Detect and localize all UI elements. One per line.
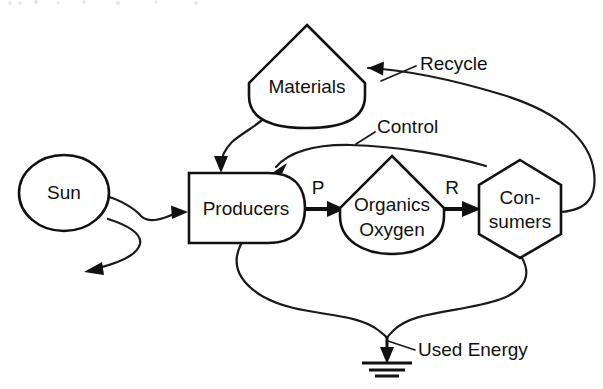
flow-sun-dissipation-branch (98, 219, 140, 268)
arrowhead-materials-into-producers (214, 156, 228, 173)
label-recycle: Recycle (420, 53, 488, 74)
arrowhead-recycle-into-materials (368, 62, 384, 76)
label-sun: Sun (47, 182, 81, 203)
label-consumers-line2: sumers (489, 211, 551, 232)
arrowhead-heat-sink (380, 347, 394, 364)
label-flow-r: R (445, 177, 459, 198)
label-flow-p: P (312, 177, 325, 198)
label-consumers-line1: Con- (499, 187, 540, 208)
arrowhead-sun-into-producers (171, 206, 188, 220)
label-oxygen: Oxygen (359, 219, 424, 240)
label-organics: Organics (354, 194, 430, 215)
arrowhead-sun-dissipation (84, 262, 104, 275)
label-producers: Producers (203, 198, 290, 219)
flow-consumers-to-heat-sink (387, 258, 526, 338)
label-control: Control (377, 116, 438, 137)
node-consumers-shape[interactable] (479, 160, 561, 258)
label-materials: Materials (268, 76, 345, 97)
energy-systems-diagram: Sun Materials Producers Organics Oxygen … (0, 0, 603, 389)
diagram-canvas: Sun Materials Producers Organics Oxygen … (0, 0, 603, 389)
flow-sun-to-producers (103, 195, 176, 220)
flow-control-consumers-to-producers (276, 145, 486, 167)
label-used-energy: Used Energy (418, 339, 528, 360)
leader-line-control (356, 132, 375, 144)
flow-producers-to-heat-sink (237, 244, 387, 338)
